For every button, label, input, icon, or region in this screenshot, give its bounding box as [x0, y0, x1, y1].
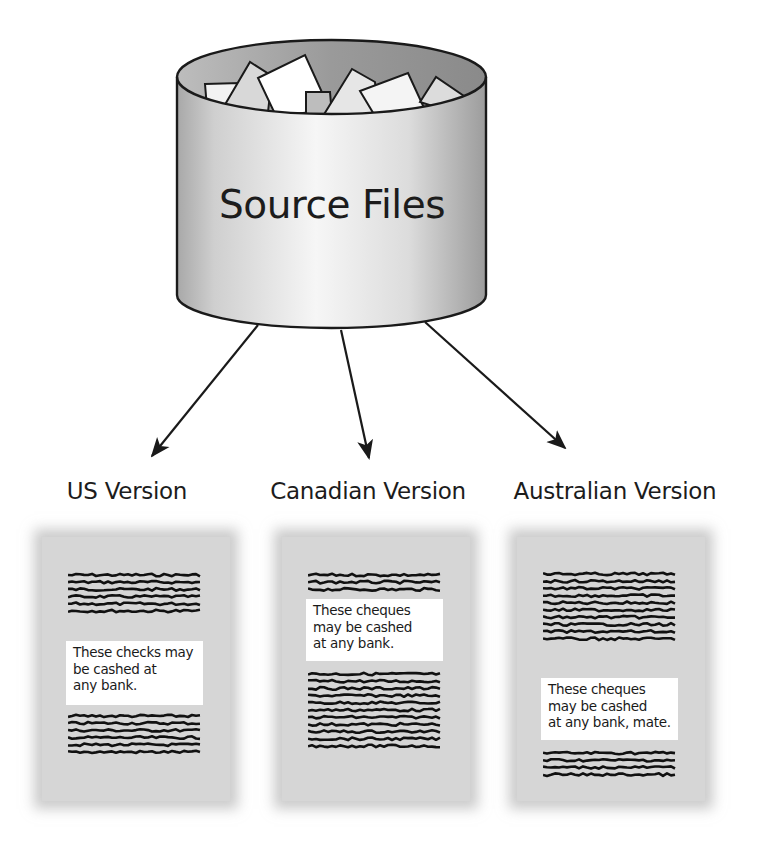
squiggle-lines	[308, 571, 442, 595]
note-line: may be cashed	[313, 619, 439, 636]
note-line: may be cashed	[548, 698, 674, 715]
note-line: at any bank, mate.	[548, 714, 674, 731]
filler-text-block-top	[543, 570, 677, 644]
filler-text-block-top	[308, 571, 442, 595]
note-line: These cheques	[548, 681, 674, 698]
canadian-version-title: Canadian Version	[256, 478, 480, 504]
squiggle-lines	[68, 712, 202, 757]
squiggle-lines	[543, 570, 677, 644]
filler-text-block-bottom	[68, 712, 202, 757]
localized-note-us: These checks may be cashed at any bank.	[66, 641, 203, 705]
arrow-to-us	[152, 325, 258, 456]
note-line: These cheques	[313, 602, 439, 619]
squiggle-lines	[543, 749, 677, 780]
note-line: be cashed at	[73, 661, 199, 678]
note-line: at any bank.	[313, 635, 439, 652]
note-line: any bank.	[73, 677, 199, 694]
canadian-document-page: These cheques may be cashed at any bank.	[282, 537, 470, 801]
source-files-label: Source Files	[177, 182, 487, 227]
squiggle-lines	[308, 670, 442, 751]
australian-version-title: Australian Version	[500, 478, 730, 504]
note-line: These checks may	[73, 644, 199, 661]
localized-note-canadian: These cheques may be cashed at any bank.	[306, 599, 443, 661]
arrows-group	[152, 322, 565, 458]
filler-text-block-bottom	[543, 749, 677, 780]
australian-document-page: These cheques may be cashed at any bank,…	[517, 537, 705, 801]
arrow-to-canadian	[341, 330, 369, 458]
arrow-to-australian	[425, 322, 565, 448]
filler-text-block-bottom	[308, 670, 442, 751]
squiggle-lines	[68, 571, 202, 616]
localized-note-australian: These cheques may be cashed at any bank,…	[541, 678, 678, 740]
filler-text-block-top	[68, 571, 202, 616]
us-version-title: US Version	[42, 478, 212, 504]
us-document-page: These checks may be cashed at any bank.	[42, 537, 230, 801]
